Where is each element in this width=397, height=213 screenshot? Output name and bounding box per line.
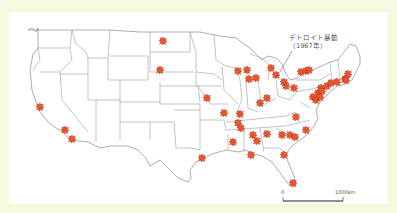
annotation-title: デトロイト暴動: [289, 34, 338, 42]
scale-end-label: 1000km: [335, 189, 356, 195]
starburst-icon[interactable]: [267, 64, 275, 72]
starburst-icon[interactable]: [263, 94, 271, 102]
starburst-icon[interactable]: [61, 126, 69, 134]
starburst-icon[interactable]: [156, 66, 164, 74]
scale-start-label: 0: [281, 189, 284, 195]
starburst-icon[interactable]: [290, 84, 298, 92]
starburst-icon[interactable]: [342, 76, 350, 84]
starburst-icon[interactable]: [333, 78, 341, 86]
starburst-icon[interactable]: [249, 131, 257, 139]
starburst-icon[interactable]: [159, 37, 167, 45]
starburst-icon[interactable]: [243, 66, 251, 74]
annotation-leader-line: [280, 51, 292, 72]
starburst-icon[interactable]: [252, 74, 260, 82]
starburst-icon[interactable]: [292, 113, 300, 121]
starburst-icon[interactable]: [203, 94, 211, 102]
detroit-riot-annotation: デトロイト暴動 （1967年）: [289, 34, 338, 50]
starburst-icon[interactable]: [278, 131, 286, 139]
starburst-icon[interactable]: [253, 137, 261, 145]
starburst-icon[interactable]: [236, 110, 244, 118]
starburst-icon[interactable]: [220, 109, 228, 117]
starburst-icon[interactable]: [291, 133, 299, 141]
us-map: [0, 0, 397, 213]
starburst-icon[interactable]: [229, 138, 237, 146]
us-outline: [28, 28, 360, 186]
annotation-year: （1967年）: [289, 42, 338, 50]
starburst-icon[interactable]: [234, 67, 242, 75]
starburst-icon[interactable]: [36, 103, 44, 111]
starburst-icon[interactable]: [282, 82, 290, 90]
starburst-icon[interactable]: [263, 130, 271, 138]
starburst-icon[interactable]: [272, 71, 280, 79]
scale-bar: [283, 197, 343, 201]
starburst-icon[interactable]: [68, 135, 76, 143]
starburst-icon[interactable]: [247, 151, 255, 159]
starburst-icon[interactable]: [198, 154, 206, 162]
